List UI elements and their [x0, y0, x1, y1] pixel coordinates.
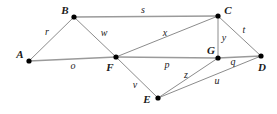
graph-edge-t	[218, 16, 261, 56]
graph-vertex-E	[155, 95, 160, 100]
graph-edge-p	[116, 57, 218, 58]
graph-edge-u	[158, 56, 261, 98]
graph-vertex-F	[113, 54, 118, 59]
graph-edge-s	[74, 16, 218, 17]
graph-vertex-D	[258, 53, 263, 58]
graph-vertex-A	[26, 58, 31, 63]
edge-layer	[29, 16, 261, 98]
graph-edge-o	[29, 57, 116, 61]
graph-vertex-B	[71, 14, 76, 19]
graph-edge-x	[116, 16, 218, 57]
graph-edge-z	[158, 58, 218, 98]
graph-diagram: rswoxpvytqzu ABCDEFG	[0, 0, 277, 114]
graph-edge-r	[29, 17, 74, 61]
graph-canvas	[0, 0, 277, 114]
graph-vertex-G	[215, 55, 220, 60]
graph-edge-v	[116, 57, 158, 98]
graph-edge-w	[74, 17, 116, 57]
graph-vertex-C	[215, 13, 220, 18]
graph-edge-q	[218, 56, 261, 58]
